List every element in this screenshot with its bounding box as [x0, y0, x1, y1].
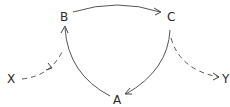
edge-x-to-b [22, 52, 62, 79]
edge-c-to-y [171, 38, 219, 80]
edge-a-to-b [61, 26, 110, 96]
node-x-label: X [7, 72, 15, 86]
edge-b-to-c [73, 5, 161, 15]
edge-c-to-a [125, 30, 170, 94]
node-b-label: B [60, 10, 68, 24]
cycle-diagram: B C X Y A [0, 0, 230, 107]
node-c-label: C [167, 10, 175, 24]
node-y-label: Y [221, 72, 230, 86]
node-a-label: A [113, 93, 122, 107]
